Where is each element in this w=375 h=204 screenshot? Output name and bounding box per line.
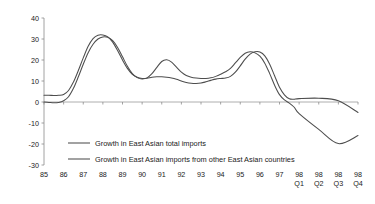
x-axis-tick-label: 98 — [354, 170, 362, 179]
x-axis-tick-label: 85 — [40, 170, 48, 179]
x-axis-tick-label: 86 — [60, 170, 68, 179]
x-axis-quarter-label: Q2 — [314, 179, 324, 188]
x-axis-tick-label: 94 — [217, 170, 225, 179]
x-axis-tick-label: 97 — [276, 170, 284, 179]
x-axis-tick-label: 88 — [99, 170, 107, 179]
series-lines — [44, 35, 358, 144]
y-axis-tick-label: 30 — [31, 35, 39, 44]
y-axis-tick-label: 40 — [31, 14, 39, 23]
line-chart: 403020100-10-20-30 858687888990919293949… — [0, 0, 375, 204]
x-axis-tick-label: 98 — [334, 170, 342, 179]
x-axis-tick-label: 92 — [177, 170, 185, 179]
x-axis-tick-label: 98 — [295, 170, 303, 179]
legend-label-1: Growth in East Asian imports from other … — [95, 155, 295, 164]
x-axis-tick-label: 93 — [197, 170, 205, 179]
chart-container: 403020100-10-20-30 858687888990919293949… — [0, 0, 375, 204]
y-axis-tick-label: -20 — [29, 140, 39, 149]
x-axis-quarter-label: Q1 — [294, 179, 304, 188]
x-axis-tick-label: 87 — [79, 170, 87, 179]
x-axis-quarter-label: Q3 — [334, 179, 344, 188]
chart-legend: Growth in East Asian total importsGrowth… — [68, 139, 295, 164]
x-axis-tick-label: 98 — [315, 170, 323, 179]
x-axis-tick-label: 90 — [138, 170, 146, 179]
y-axis-tick-label: -30 — [29, 161, 39, 170]
y-axis-tick-label: 20 — [31, 56, 39, 65]
x-axis-quarter-label: Q4 — [353, 179, 363, 188]
x-axis-tick-label: 95 — [236, 170, 244, 179]
y-axis-tick-label: 10 — [31, 77, 39, 86]
legend-label-0: Growth in East Asian total imports — [95, 139, 206, 148]
y-axis-tick-label: 0 — [35, 98, 39, 107]
y-axis-tick-label: -10 — [29, 119, 39, 128]
chart-plot-area: 403020100-10-20-30 858687888990919293949… — [29, 14, 363, 188]
series-line-1 — [44, 37, 358, 144]
x-axis-tick-label: 89 — [119, 170, 127, 179]
x-axis-tick-label: 91 — [158, 170, 166, 179]
x-axis-tick-label: 96 — [256, 170, 264, 179]
